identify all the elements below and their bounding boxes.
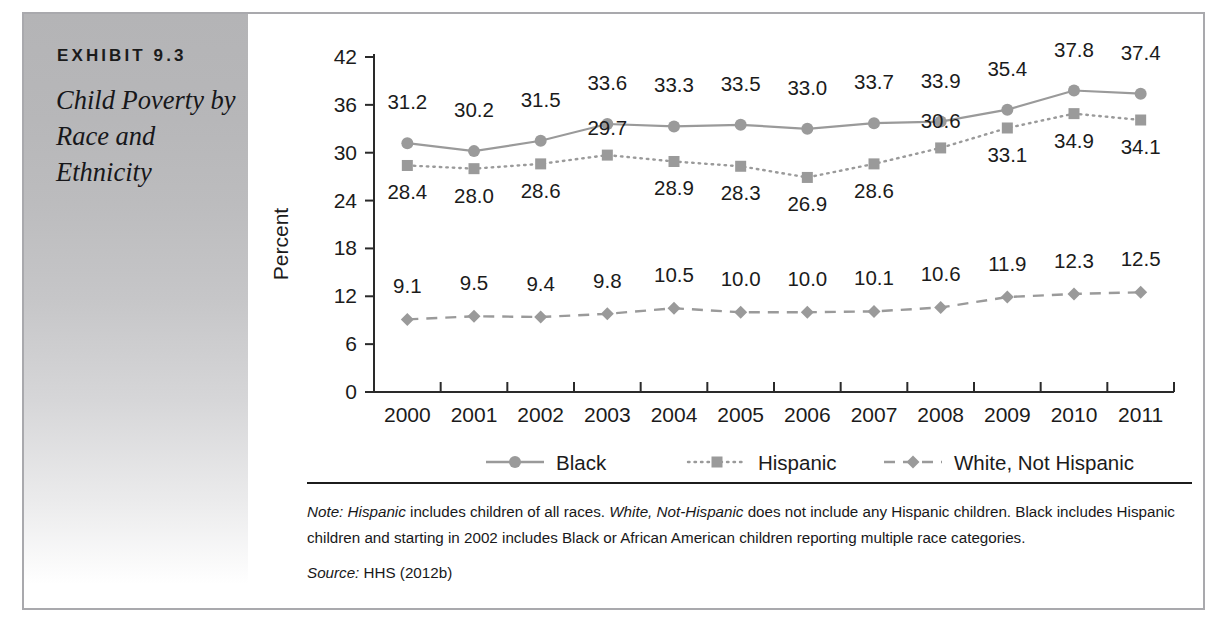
y-tick-label: 12	[334, 284, 357, 307]
data-point-marker	[734, 306, 747, 319]
data-value-label: 10.5	[654, 263, 694, 286]
legend-label: Black	[556, 451, 607, 474]
x-tick-label: 2004	[651, 403, 698, 426]
y-tick-label: 0	[345, 380, 357, 403]
line-chart: 06121824303642Percent2000200120022003200…	[248, 14, 1203, 484]
series-black: 31.230.231.533.633.333.533.033.733.935.4…	[387, 38, 1160, 158]
y-tick-label: 36	[334, 93, 357, 116]
data-point-marker	[1068, 85, 1080, 97]
x-tick-label: 2003	[584, 403, 631, 426]
y-tick-label: 18	[334, 236, 357, 259]
chart-svg: 06121824303642Percent2000200120022003200…	[248, 14, 1203, 484]
data-point-marker	[535, 135, 547, 147]
series-line	[407, 91, 1140, 152]
data-point-marker	[801, 306, 814, 319]
x-tick-label: 2006	[784, 403, 831, 426]
data-point-marker	[868, 117, 880, 129]
series-line	[407, 292, 1140, 319]
exhibit-figure: EXHIBIT 9.3 Child Poverty by Race and Et…	[22, 12, 1205, 610]
data-point-marker	[401, 137, 413, 149]
data-value-label: 34.1	[1121, 135, 1161, 158]
y-tick-label: 42	[334, 45, 357, 68]
y-axis-title: Percent	[269, 208, 292, 281]
data-point-marker	[668, 120, 680, 132]
legend-marker	[907, 456, 920, 469]
data-point-marker	[1134, 286, 1147, 299]
data-point-marker	[934, 301, 947, 314]
data-value-label: 28.6	[521, 179, 561, 202]
y-tick-label: 24	[334, 189, 358, 212]
data-point-marker	[1135, 115, 1146, 126]
data-value-label: 9.5	[460, 271, 489, 294]
data-value-label: 33.7	[854, 70, 894, 93]
data-value-label: 12.5	[1121, 247, 1161, 270]
data-point-marker	[801, 123, 813, 135]
data-value-label: 31.2	[387, 90, 427, 113]
data-value-label: 34.9	[1054, 129, 1094, 152]
data-value-label: 11.9	[988, 252, 1026, 275]
data-value-label: 9.8	[593, 269, 622, 292]
data-point-marker	[1135, 88, 1147, 100]
data-value-label: 26.9	[787, 192, 827, 215]
data-point-marker	[601, 307, 614, 320]
x-tick-label: 2001	[451, 403, 498, 426]
data-value-label: 12.3	[1054, 249, 1094, 272]
data-point-marker	[869, 158, 880, 169]
y-tick-label: 30	[334, 141, 357, 164]
data-value-label: 9.4	[526, 272, 555, 295]
x-tick-label: 2002	[517, 403, 564, 426]
legend-marker	[509, 456, 521, 468]
data-point-marker	[535, 158, 546, 169]
data-value-label: 28.6	[854, 179, 894, 202]
exhibit-caption-panel: EXHIBIT 9.3 Child Poverty by Race and Et…	[24, 14, 248, 608]
data-value-label: 28.9	[654, 176, 694, 199]
data-point-marker	[1002, 122, 1013, 133]
data-point-marker	[402, 160, 413, 171]
data-point-marker	[602, 150, 613, 161]
series-hispanic: 28.428.028.629.728.928.326.928.630.633.1…	[387, 108, 1160, 215]
data-point-marker	[935, 142, 946, 153]
data-value-label: 30.6	[921, 109, 961, 132]
legend-item-black[interactable]: Black	[486, 451, 607, 474]
data-point-marker	[468, 310, 481, 323]
note-divider	[307, 482, 1192, 484]
legend-item-hispanic[interactable]: Hispanic	[688, 451, 837, 474]
data-value-label: 28.4	[387, 180, 427, 203]
x-tick-label: 2011	[1118, 403, 1163, 426]
data-value-label: 33.5	[721, 72, 761, 95]
exhibit-number: EXHIBIT 9.3	[57, 46, 187, 66]
data-value-label: 37.8	[1054, 38, 1094, 61]
data-point-marker	[1001, 104, 1013, 116]
data-point-marker	[1069, 108, 1080, 119]
data-value-label: 29.7	[587, 116, 627, 139]
note-block: Note: Hispanic includes children of all …	[307, 482, 1197, 581]
legend-item-white-not-hispanic[interactable]: White, Not Hispanic	[884, 451, 1134, 474]
data-point-marker	[468, 145, 480, 157]
data-value-label: 28.0	[454, 184, 494, 207]
source-text: Source: HHS (2012b)	[307, 564, 1197, 581]
data-value-label: 33.6	[587, 71, 627, 94]
data-value-label: 35.4	[987, 57, 1027, 80]
data-value-label: 28.3	[721, 181, 761, 204]
data-value-label: 37.4	[1121, 41, 1161, 64]
x-tick-label: 2007	[851, 403, 898, 426]
x-tick-label: 2005	[717, 403, 764, 426]
data-point-marker	[668, 302, 681, 315]
data-point-marker	[1001, 291, 1014, 304]
data-value-label: 33.3	[654, 73, 694, 96]
data-value-label: 10.6	[921, 262, 961, 285]
data-point-marker	[469, 163, 480, 174]
data-value-label: 31.5	[521, 88, 561, 111]
x-tick-label: 2000	[384, 403, 431, 426]
data-value-label: 33.0	[787, 76, 827, 99]
data-value-label: 30.2	[454, 98, 494, 121]
exhibit-title: Child Poverty by Race and Ethnicity	[56, 82, 241, 190]
note-text: Note: Hispanic includes children of all …	[307, 499, 1197, 550]
legend-label: Hispanic	[758, 451, 837, 474]
data-point-marker	[401, 313, 414, 326]
data-point-marker	[1068, 287, 1081, 300]
y-tick-label: 6	[345, 332, 357, 355]
x-tick-label: 2010	[1051, 403, 1098, 426]
data-point-marker	[735, 161, 746, 172]
legend-marker	[712, 457, 723, 468]
